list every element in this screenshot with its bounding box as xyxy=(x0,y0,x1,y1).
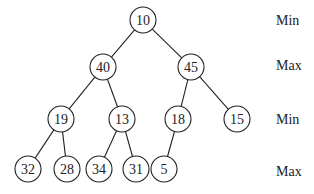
heap-node-19: 19 xyxy=(48,106,74,132)
heap-node-18: 18 xyxy=(165,106,191,132)
level-label-max: Max xyxy=(276,58,302,73)
heap-node-40: 40 xyxy=(90,54,116,80)
heap-node-28: 28 xyxy=(54,156,80,182)
heap-node-5: 5 xyxy=(151,156,177,182)
heap-node-31: 31 xyxy=(123,156,149,182)
edge-19-28 xyxy=(63,132,66,156)
node-value: 45 xyxy=(184,60,198,75)
node-value: 18 xyxy=(171,112,185,127)
edge-10-40 xyxy=(111,30,134,57)
level-label-min: Min xyxy=(276,112,299,127)
heap-node-45: 45 xyxy=(178,54,204,80)
edge-45-18 xyxy=(181,80,188,107)
heap-node-15: 15 xyxy=(224,106,250,132)
node-value: 5 xyxy=(161,162,168,177)
node-value: 15 xyxy=(230,112,244,127)
heap-node-32: 32 xyxy=(15,156,41,182)
node-value: 31 xyxy=(129,162,143,177)
level-labels: MinMaxMinMax xyxy=(276,13,302,179)
node-value: 19 xyxy=(54,112,68,127)
edge-13-34 xyxy=(104,131,116,157)
heap-node-34: 34 xyxy=(86,156,112,182)
edge-18-5 xyxy=(168,132,175,157)
edge-10-45 xyxy=(152,29,181,58)
edge-19-32 xyxy=(35,130,54,158)
level-label-max: Max xyxy=(276,164,302,179)
edge-40-19 xyxy=(69,77,95,109)
node-value: 28 xyxy=(60,162,74,177)
tree-edges xyxy=(35,29,228,158)
edge-13-31 xyxy=(126,132,133,157)
level-label-min: Min xyxy=(276,13,299,28)
min-max-heap-diagram: 10404519131815322834315 MinMaxMinMax xyxy=(0,0,314,194)
edge-45-15 xyxy=(200,77,229,110)
heap-node-13: 13 xyxy=(109,106,135,132)
node-value: 13 xyxy=(115,112,129,127)
heap-node-10: 10 xyxy=(130,7,156,33)
node-value: 10 xyxy=(136,13,150,28)
edge-40-13 xyxy=(107,79,117,107)
node-value: 40 xyxy=(96,60,110,75)
node-value: 32 xyxy=(21,162,35,177)
node-value: 34 xyxy=(92,162,106,177)
